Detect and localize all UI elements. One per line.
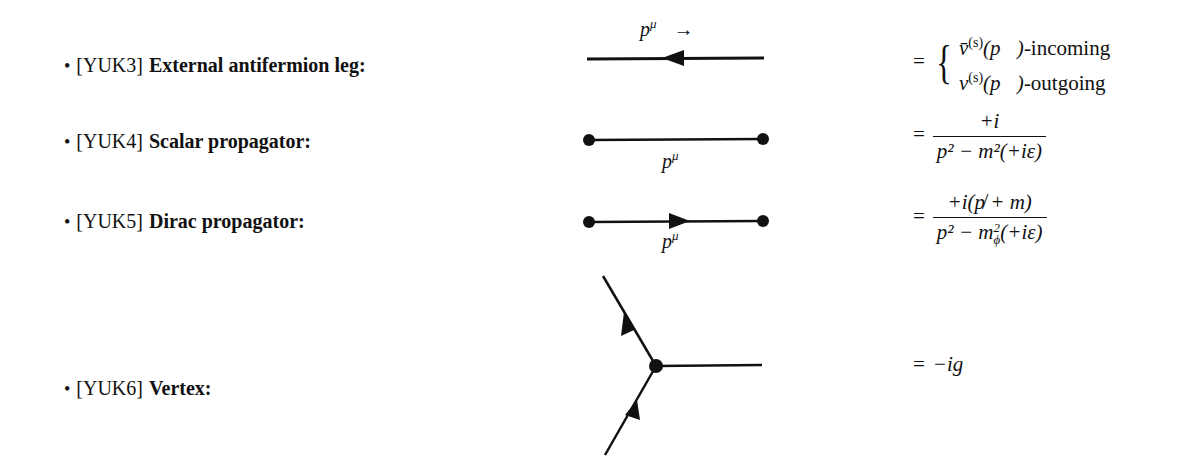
spinor-symbol: v	[959, 71, 968, 95]
spinor-index: (s)	[968, 35, 983, 50]
vertex-dot-icon	[583, 134, 595, 146]
equals-sign: =	[913, 352, 925, 376]
momentum-symbol: p	[640, 18, 650, 40]
momentum-index: μ	[672, 228, 679, 243]
left-brace-icon: {	[936, 40, 951, 86]
momentum-symbol: p	[662, 230, 672, 252]
vertex-factor: −ig	[933, 352, 964, 376]
momentum-label-yuk5: pμ	[662, 228, 679, 253]
formula-yuk3: ={ v̄(s)(p⃗)-incoming v(s)(p⃗)-outgoing	[913, 28, 1110, 98]
numerator: +i(p̸ + m)	[944, 190, 1036, 217]
spinor-index: (s)	[968, 70, 983, 85]
fraction: +i(p̸ + m) p² − m2ϕ(+iε)	[933, 190, 1047, 246]
equals-sign: =	[913, 204, 925, 228]
formula-yuk5: = +i(p̸ + m) p² − m2ϕ(+iε)	[913, 190, 1047, 246]
momentum-symbol: p	[662, 150, 672, 172]
denominator-part: (+iε)	[1000, 220, 1042, 244]
antifermion-leg-diagram	[587, 50, 764, 66]
equals-sign: =	[913, 122, 925, 146]
momentum-label-yuk3: pμ →	[640, 16, 694, 41]
vertex-dot-icon	[649, 359, 663, 373]
vertex-dot-icon	[757, 215, 769, 227]
scalar-propagator-diagram	[583, 133, 769, 146]
spinor-arg: (p⃗)	[983, 71, 1024, 95]
denominator: p² − m2ϕ(+iε)	[933, 217, 1047, 246]
formula-yuk4: = +i p² − m²(+iε)	[913, 109, 1046, 164]
case-suffix: -incoming	[1024, 36, 1110, 60]
spinor-symbol: v̄	[959, 36, 968, 60]
equals-sign: =	[913, 49, 925, 73]
spinor-arg: (p⃗)	[983, 36, 1024, 60]
fraction: +i p² − m²(+iε)	[933, 109, 1046, 164]
denominator: p² − m²(+iε)	[933, 136, 1046, 164]
arrow-left-icon	[662, 50, 684, 66]
formula-yuk6: =−ig	[913, 352, 963, 377]
arrow-right-icon	[669, 213, 690, 229]
vertex-dot-icon	[583, 216, 595, 228]
momentum-index: μ	[672, 148, 679, 163]
case-suffix: -outgoing	[1024, 71, 1106, 95]
momentum-label-yuk4: pμ	[662, 148, 679, 173]
momentum-arrow-icon: →	[674, 18, 694, 40]
case-outgoing: v(s)(p⃗)-outgoing	[959, 63, 1110, 98]
dirac-propagator-diagram	[583, 213, 769, 229]
vertex-diagram	[603, 276, 762, 455]
numerator: +i	[975, 109, 1003, 136]
denominator-part: p² − m	[937, 220, 994, 244]
momentum-index: μ	[650, 16, 657, 31]
cases-list: v̄(s)(p⃗)-incoming v(s)(p⃗)-outgoing	[959, 28, 1110, 98]
vertex-dot-icon	[757, 133, 769, 145]
case-incoming: v̄(s)(p⃗)-incoming	[959, 28, 1110, 63]
